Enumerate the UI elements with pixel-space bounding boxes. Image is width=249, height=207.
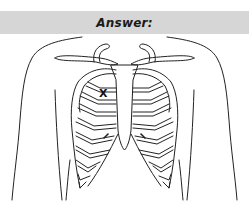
answer-label: Answer: [96, 16, 152, 30]
rib-cage-illustration: X [0, 34, 249, 207]
answer-banner: Answer: [0, 11, 249, 34]
torso-diagram: X [0, 34, 249, 207]
left-arm-inner-line [55, 90, 62, 200]
right-clavicle [131, 56, 194, 65]
x-marker: X [99, 87, 108, 100]
sternum [111, 65, 138, 150]
left-clavicle [55, 56, 118, 65]
right-arm-inner-line [187, 90, 194, 200]
